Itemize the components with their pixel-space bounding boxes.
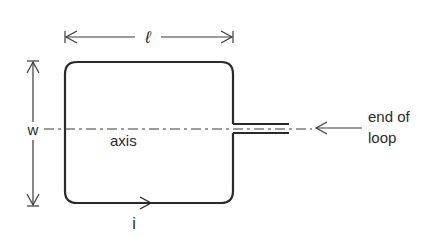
end-of-loop-label-line1: end of (368, 108, 411, 125)
axis-label: axis (110, 132, 137, 149)
current-label: i (132, 215, 136, 232)
end-pointer-arrow (316, 122, 362, 134)
current-loop (65, 62, 233, 203)
loop-diagram: ℓ w axis i end of loop (0, 0, 431, 237)
length-label: ℓ (144, 28, 151, 47)
end-of-loop-label-line2: loop (368, 129, 396, 146)
width-label: w (27, 121, 39, 138)
